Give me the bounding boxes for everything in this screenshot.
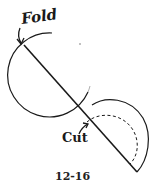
circle-outline-faint	[88, 86, 90, 92]
figure-number: 12-16	[55, 170, 91, 183]
fold-line	[24, 45, 137, 172]
semicircle-outline	[92, 100, 148, 172]
fold-cut-diagram: Fold Cut 12-16	[0, 0, 157, 189]
cut-line-dashed	[87, 115, 137, 164]
speck	[79, 43, 80, 44]
cut-label: Cut	[62, 130, 88, 145]
fold-label: Fold	[19, 5, 59, 28]
